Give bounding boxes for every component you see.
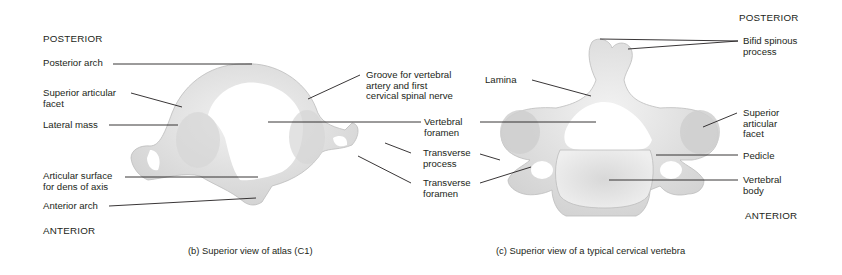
- cervical-orientation-posterior: POSTERIOR: [739, 12, 799, 23]
- cervical-orientation-anterior: ANTERIOR: [745, 210, 797, 221]
- label-articular-surface-dens: Articular surface for dens of axis: [43, 171, 112, 192]
- label-atlas-superior-articular-facet: Superior articular facet: [43, 88, 116, 109]
- label-vertebral-body: Vertebral body: [743, 175, 781, 196]
- label-vertebral-foramen: Vertebral foramen: [424, 117, 462, 138]
- label-groove-vertebral-artery: Groove for vertebral artery and first ce…: [366, 70, 453, 102]
- label-transverse-foramen: Transverse foramen: [423, 178, 471, 199]
- cervical-vertebra-bone: [500, 39, 720, 216]
- atlas-orientation-anterior: ANTERIOR: [43, 225, 95, 236]
- label-bifid-spinous-process: Bifid spinous process: [743, 36, 797, 57]
- anatomy-illustration: [0, 0, 842, 275]
- caption-atlas: (b) Superior view of atlas (C1): [188, 245, 313, 256]
- label-pedicle: Pedicle: [743, 151, 774, 162]
- label-lamina: Lamina: [485, 75, 516, 86]
- label-anterior-arch: Anterior arch: [43, 201, 98, 212]
- label-posterior-arch: Posterior arch: [43, 58, 103, 69]
- label-lateral-mass: Lateral mass: [43, 120, 98, 131]
- atlas-bone: [131, 64, 358, 205]
- label-cervical-superior-articular-facet: Superior articular facet: [743, 108, 779, 140]
- atlas-orientation-posterior: POSTERIOR: [43, 33, 103, 44]
- caption-cervical-vertebra: (c) Superior view of a typical cervical …: [496, 245, 685, 256]
- label-transverse-process: Transverse process: [423, 148, 471, 169]
